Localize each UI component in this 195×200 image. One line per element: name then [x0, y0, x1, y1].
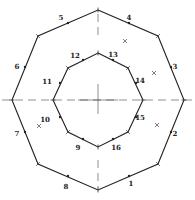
edge-dot	[112, 59, 114, 61]
edge-dot	[82, 59, 84, 61]
edge-dot	[82, 138, 84, 140]
center-axes	[2, 14, 194, 188]
edge-dot	[112, 138, 114, 140]
edge-label: 5	[59, 13, 64, 22]
edge-label: 7	[15, 129, 20, 138]
edge-label: 4	[127, 13, 132, 22]
edge-dot	[128, 22, 130, 24]
edge-label: 16	[111, 143, 121, 152]
edge-label: 2	[173, 129, 178, 138]
edge-label: 3	[173, 62, 178, 71]
edge-label: 1	[129, 179, 134, 188]
edge-label: 15	[135, 113, 145, 122]
edge-label: 9	[76, 143, 81, 152]
edge-label: 6	[15, 62, 20, 71]
edge-dot	[24, 131, 26, 133]
edge-dot	[67, 22, 69, 24]
edge-label: 14	[135, 76, 145, 85]
edge-label: 11	[42, 77, 52, 86]
edge-label: 13	[108, 50, 118, 59]
edge-dot	[59, 116, 61, 118]
edge-dot	[67, 175, 69, 177]
octagon-diagram: 12345678910111213141516	[0, 0, 195, 200]
edge-dot	[59, 82, 61, 84]
edge-label: 10	[40, 115, 50, 124]
edge-label: 8	[64, 182, 69, 191]
edge-dot	[128, 175, 130, 177]
edge-label: 12	[70, 51, 80, 60]
edge-dot	[24, 66, 26, 68]
